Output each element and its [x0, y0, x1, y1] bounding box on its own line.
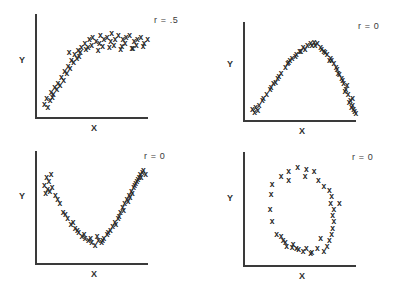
data-point: x [97, 39, 102, 48]
data-point: x [270, 217, 275, 226]
data-point: x [337, 198, 342, 207]
data-point: x [71, 58, 76, 67]
data-point: x [48, 187, 53, 196]
data-point: x [257, 101, 262, 110]
data-point: x [294, 50, 299, 59]
data-point: x [281, 236, 286, 245]
data-point: x [71, 218, 76, 227]
panel-top-right: Y X r = 0 xxxxxxxxxxxxxxxxxxxxxxxxxxxxxx… [208, 0, 416, 142]
data-point: x [325, 50, 330, 59]
data-point: x [328, 54, 333, 63]
data-point: x [84, 44, 89, 53]
data-point: x [58, 80, 63, 89]
data-point: x [141, 166, 146, 175]
data-point: x [55, 195, 60, 204]
data-point: x [303, 45, 308, 54]
data-point: x [260, 96, 265, 105]
x-axis-line [243, 120, 356, 122]
data-point: x [133, 178, 138, 187]
data-point: x [72, 50, 77, 59]
data-point: x [315, 244, 320, 253]
data-point: x [322, 182, 327, 191]
data-point: x [269, 83, 274, 92]
data-point: x [141, 41, 146, 50]
data-point: x [119, 41, 124, 50]
data-point: x [312, 167, 317, 176]
data-point: x [283, 238, 288, 247]
data-point: x [96, 46, 101, 55]
data-point: x [313, 41, 318, 50]
data-point: x [87, 35, 92, 44]
y-axis-line [243, 152, 245, 266]
data-point: x [297, 46, 302, 55]
data-point: x [351, 105, 356, 114]
correlation-annotation: r = .5 [154, 16, 178, 25]
data-point: x [50, 183, 55, 192]
data-point: x [345, 81, 350, 90]
data-point: x [118, 207, 123, 216]
data-point: x [134, 176, 139, 185]
data-point: x [293, 52, 298, 61]
data-point: x [294, 244, 299, 253]
data-point: x [66, 61, 71, 70]
data-point: x [106, 228, 111, 237]
x-axis-line [35, 263, 148, 265]
data-point: x [67, 48, 72, 57]
plot-area-bottom-left: Y X r = 0 xxxxxxxxxxxxxxxxxxxxxxxxxxxxxx… [0, 142, 208, 284]
data-point: x [138, 170, 143, 179]
data-point: x [328, 198, 333, 207]
x-axis-label: X [91, 124, 97, 133]
data-point: x [52, 82, 57, 91]
data-point: x [271, 79, 276, 88]
data-point: x [77, 52, 82, 61]
data-point: x [121, 35, 126, 44]
data-point: x [68, 220, 73, 229]
data-point: x [89, 40, 94, 49]
data-point: x [274, 230, 279, 239]
data-point: x [276, 72, 281, 81]
data-point: x [353, 108, 358, 117]
data-point: x [309, 41, 314, 50]
data-point: x [83, 234, 88, 243]
data-point: x [319, 45, 324, 54]
data-point: x [142, 39, 147, 48]
data-point: x [73, 224, 78, 233]
data-point: x [114, 220, 119, 229]
data-point: x [44, 94, 49, 103]
data-point: x [286, 176, 291, 185]
data-point: x [88, 234, 93, 243]
data-point: x [341, 79, 346, 88]
data-point: x [304, 165, 309, 174]
data-point: x [76, 46, 81, 55]
data-point: x [285, 59, 290, 68]
data-point: x [127, 191, 132, 200]
data-point: x [105, 230, 110, 239]
data-point: x [112, 40, 117, 49]
data-point: x [57, 199, 62, 208]
data-point: x [308, 248, 313, 257]
data-point: x [127, 31, 132, 40]
y-axis-label: Y [19, 192, 25, 201]
data-point: x [268, 205, 273, 214]
data-point: x [42, 99, 47, 108]
data-point: x [132, 181, 137, 190]
data-point: x [118, 44, 123, 53]
data-point: x [131, 183, 136, 192]
data-point: x [110, 222, 115, 231]
data-point: x [268, 85, 273, 94]
data-point: x [117, 211, 122, 220]
data-point: x [49, 170, 54, 179]
data-point: x [116, 213, 121, 222]
data-point: x [121, 205, 126, 214]
data-point: x [116, 31, 121, 40]
data-point: x [286, 57, 291, 66]
data-point: x [79, 232, 84, 241]
data-point: x [331, 217, 336, 226]
data-point: x [65, 69, 70, 78]
data-point: x [45, 185, 50, 194]
data-point: x [82, 230, 87, 239]
x-axis-label: X [299, 272, 305, 281]
data-point: x [330, 223, 335, 232]
data-point: x [86, 42, 91, 51]
data-point: x [129, 187, 134, 196]
